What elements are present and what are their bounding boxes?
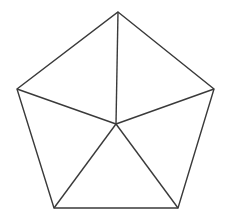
- figure-canvas: [0, 0, 225, 219]
- pentagon-diagram: [0, 0, 225, 219]
- pentagon-outline: [17, 12, 214, 208]
